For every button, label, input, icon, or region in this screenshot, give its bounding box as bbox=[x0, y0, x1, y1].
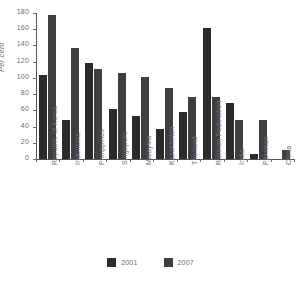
x-axis-tick-mark bbox=[224, 159, 225, 162]
x-axis-category-label: Thailand bbox=[191, 137, 198, 165]
x-axis-tick-mark bbox=[247, 159, 248, 162]
x-axis-category-label: Philippines bbox=[98, 129, 105, 165]
x-axis-tick-mark bbox=[294, 159, 295, 162]
bar-2001 bbox=[250, 154, 258, 159]
y-axis-tick-label: 120 bbox=[17, 57, 29, 64]
bar-2001 bbox=[203, 28, 211, 159]
x-axis-category-label: Indonesia bbox=[74, 133, 81, 165]
x-axis-category-label: Singapore bbox=[121, 131, 128, 165]
y-axis-tick-label: 0 bbox=[25, 154, 29, 161]
y-axis-tick-label: 100 bbox=[17, 73, 29, 80]
chart-figure: Per cent 020406080100120140160180 Republ… bbox=[0, 0, 301, 281]
bar-2001 bbox=[85, 63, 93, 159]
x-axis-category-label: Russian Federation bbox=[215, 101, 222, 165]
bar-group bbox=[225, 13, 248, 159]
x-axis-tick-mark bbox=[200, 159, 201, 162]
x-axis-tick-mark bbox=[59, 159, 60, 162]
bar-2001 bbox=[156, 129, 164, 159]
bar-2001 bbox=[109, 109, 117, 159]
x-axis-category-label: India bbox=[238, 149, 245, 165]
x-axis-category-label: Malaysia bbox=[145, 136, 152, 165]
x-axis-tick-mark bbox=[36, 159, 37, 162]
x-axis-category-label: China bbox=[285, 146, 292, 165]
legend-label: 2007 bbox=[178, 259, 194, 266]
y-axis-tick-label: 40 bbox=[21, 122, 29, 129]
bar-2001 bbox=[62, 120, 70, 159]
legend-item[interactable]: 2007 bbox=[164, 258, 194, 267]
x-axis-tick-mark bbox=[271, 159, 272, 162]
bar-2001 bbox=[226, 103, 234, 159]
y-axis-tick-label: 20 bbox=[21, 138, 29, 145]
bar-2001 bbox=[179, 112, 187, 159]
legend-swatch-icon bbox=[107, 258, 116, 267]
x-axis-tick-mark bbox=[177, 159, 178, 162]
bar-group bbox=[272, 13, 295, 159]
y-axis-tick-label: 180 bbox=[17, 8, 29, 15]
y-axis-title: Per cent bbox=[0, 42, 6, 72]
x-axis-tick-mark bbox=[106, 159, 107, 162]
legend-label: 2001 bbox=[121, 259, 137, 266]
legend-swatch-icon bbox=[164, 258, 173, 267]
legend-item[interactable]: 2001 bbox=[107, 258, 137, 267]
x-axis-tick-mark bbox=[83, 159, 84, 162]
bar-2001 bbox=[132, 116, 140, 159]
bar-2001 bbox=[39, 75, 47, 159]
y-axis-tick-label: 80 bbox=[21, 89, 29, 96]
y-axis-tick-label: 160 bbox=[17, 24, 29, 31]
bar-group bbox=[178, 13, 201, 159]
x-axis-tick-mark bbox=[130, 159, 131, 162]
x-axis-category-label: Pakistan bbox=[262, 137, 269, 165]
y-axis-tick-label: 60 bbox=[21, 105, 29, 112]
x-axis-category-label: Kazakhstan bbox=[168, 126, 175, 165]
chart-legend: 20012007 bbox=[0, 258, 301, 267]
y-axis-tick-label: 140 bbox=[17, 40, 29, 47]
x-axis-tick-mark bbox=[153, 159, 154, 162]
x-axis-category-label: Republic of Korea bbox=[51, 106, 58, 165]
